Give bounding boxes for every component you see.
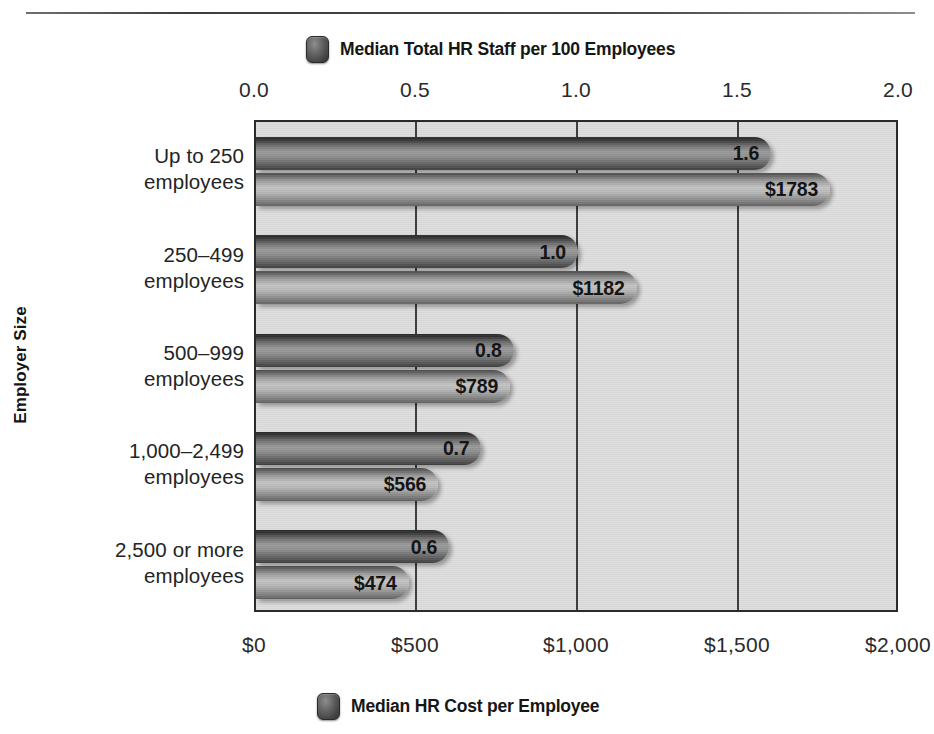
legend-label-cost: Median HR Cost per Employee xyxy=(351,696,599,717)
legend-label-staff: Median Total HR Staff per 100 Employees xyxy=(340,39,675,60)
top-axis-label: 1.0 xyxy=(561,78,591,102)
bar-staff: 0.8 xyxy=(256,334,514,367)
category-label: 1,000–2,499employees xyxy=(4,438,244,490)
bar-cost: $789 xyxy=(256,370,510,403)
bar-staff: 0.6 xyxy=(256,530,449,563)
bar-staff: 1.0 xyxy=(256,235,578,268)
category-label-line: 250–499 xyxy=(4,242,244,268)
chart-plot-area: 1.6$17831.0$11820.8$7890.7$5660.6$474 xyxy=(254,120,898,612)
bar-cost: $566 xyxy=(256,468,438,501)
category-label-line: 2,500 or more xyxy=(4,537,244,563)
category-label: Up to 250employees xyxy=(4,143,244,195)
bottom-axis-label: $500 xyxy=(391,633,439,657)
top-axis-label: 1.5 xyxy=(722,78,752,102)
legend-swatch-icon-cost xyxy=(317,693,340,720)
category-label-line: employees xyxy=(4,464,244,490)
legend-bottom-cost: Median HR Cost per Employee xyxy=(317,693,599,720)
bar-value-label: 0.8 xyxy=(475,339,502,362)
bar-value-label: $566 xyxy=(384,473,427,496)
category-label-line: Up to 250 xyxy=(4,143,244,169)
bar-value-label: 1.0 xyxy=(539,240,566,263)
category-label-line: employees xyxy=(4,366,244,392)
bottom-axis-label: $1,000 xyxy=(543,633,609,657)
bottom-axis-label: $0 xyxy=(242,633,266,657)
top-axis-label: 2.0 xyxy=(883,78,913,102)
legend-swatch-icon-staff xyxy=(306,36,329,63)
category-label-line: employees xyxy=(4,563,244,589)
bar-value-label: 0.7 xyxy=(443,437,470,460)
category-label-line: employees xyxy=(4,169,244,195)
top-axis-label: 0.5 xyxy=(400,78,430,102)
bar-value-label: $474 xyxy=(354,571,397,594)
category-axis-labels: Up to 250employees250–499employees500–99… xyxy=(0,0,244,734)
bar-value-label: 0.6 xyxy=(411,535,438,558)
bar-value-label: $1182 xyxy=(572,276,624,299)
category-label-line: 500–999 xyxy=(4,340,244,366)
bottom-axis-label: $1,500 xyxy=(704,633,770,657)
bar-cost: $474 xyxy=(256,566,409,599)
category-label: 500–999employees xyxy=(4,340,244,392)
bottom-axis-label: $2,000 xyxy=(865,633,931,657)
category-label-line: 1,000–2,499 xyxy=(4,438,244,464)
bar-value-label: $1783 xyxy=(765,178,818,201)
bar-value-label: 1.6 xyxy=(733,142,760,165)
bar-staff: 0.7 xyxy=(256,432,481,465)
category-label: 2,500 or moreemployees xyxy=(4,537,244,589)
category-label: 250–499employees xyxy=(4,242,244,294)
bar-cost: $1182 xyxy=(256,271,637,304)
bar-cost: $1783 xyxy=(256,173,830,206)
legend-top-staff: Median Total HR Staff per 100 Employees xyxy=(306,36,675,63)
category-label-line: employees xyxy=(4,268,244,294)
bar-value-label: $789 xyxy=(455,375,498,398)
bar-staff: 1.6 xyxy=(256,137,771,170)
